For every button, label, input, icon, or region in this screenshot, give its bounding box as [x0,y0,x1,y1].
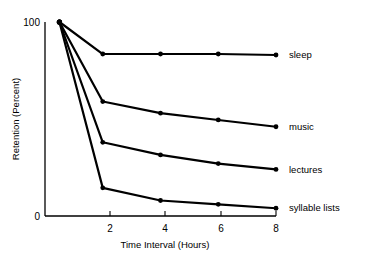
x-axis-title: Time Interval (Hours) [121,239,210,250]
y-tick-label-100: 100 [23,17,40,28]
data-point [274,167,279,172]
data-point [216,161,221,166]
y-tick-label-0: 0 [34,211,40,222]
data-point [100,185,105,190]
retention-line-chart: 100 0 2 4 6 8 Time Interval (Hours) Rete… [0,0,366,258]
x-tick-label-2: 2 [107,223,113,234]
data-point [100,52,105,57]
data-point [158,198,163,203]
x-tick-label-6: 6 [218,223,224,234]
data-point [100,140,105,145]
y-axis-title: Retention (Percent) [10,78,21,160]
series-music [57,19,279,129]
series-layer [57,19,279,210]
data-point [100,99,105,104]
data-point [274,206,279,211]
series-label-lectures: lectures [289,164,323,175]
x-tick-label-8: 8 [273,223,279,234]
axis-lines [45,22,276,216]
data-point [57,19,62,24]
series-line-sleep [59,22,276,55]
data-point [158,111,163,116]
data-point [216,202,221,207]
series-label-syllable-lists: syllable lists [289,202,340,213]
series-label-sleep: sleep [289,49,312,60]
chart-canvas: 100 0 2 4 6 8 Time Interval (Hours) Rete… [0,0,366,258]
series-label-music: music [289,121,314,132]
data-point [216,118,221,123]
series-sleep [57,19,279,57]
data-point [158,52,163,57]
data-point [158,152,163,157]
data-point [274,53,279,58]
x-axis-ticks [110,211,276,216]
data-point [274,124,279,129]
series-lectures [57,19,279,171]
x-tick-label-4: 4 [162,223,168,234]
data-point [216,52,221,57]
